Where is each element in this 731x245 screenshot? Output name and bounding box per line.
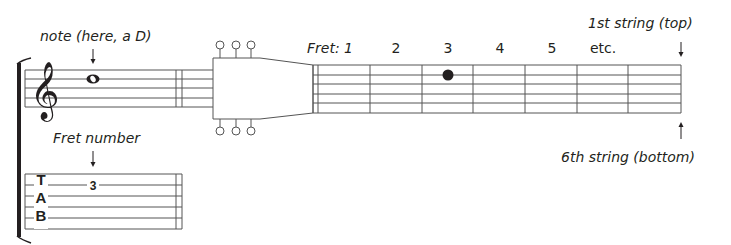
note-label: note (here, a D) <box>40 29 151 43</box>
tab-letter-b: B <box>36 208 47 223</box>
svg-text:𝄞: 𝄞 <box>30 61 60 122</box>
system-bracket <box>17 58 31 243</box>
tab-letter-t: T <box>36 172 45 187</box>
fret-label-3: 3 <box>444 41 453 55</box>
fret-number-label: Fret number <box>53 131 140 145</box>
note-arrow-icon <box>91 49 96 64</box>
fret-dot-marker <box>443 70 454 81</box>
tuning-pegs-top <box>216 41 255 58</box>
fret-label-etc: etc. <box>590 41 616 55</box>
fret-label-5: 5 <box>548 41 557 55</box>
sixth-string-arrow-icon <box>679 122 684 139</box>
fretboard <box>313 65 681 113</box>
tab-staff <box>25 174 182 229</box>
tab-fret-number: 3 <box>90 180 97 192</box>
whole-note-icon <box>87 74 100 83</box>
fret-label-prefix: Fret: 1 <box>307 41 353 55</box>
first-string-label: 1st string (top) <box>588 16 693 30</box>
fret-number-arrow-icon <box>91 151 96 167</box>
tab-letter-a: A <box>36 190 47 205</box>
guitar-headstock <box>213 58 313 119</box>
sixth-string-label: 6th string (bottom) <box>561 150 695 164</box>
first-string-arrow-icon <box>679 42 684 57</box>
fret-label-2: 2 <box>392 41 401 55</box>
fret-label-4: 4 <box>496 41 505 55</box>
treble-clef-icon: 𝄞 <box>30 61 60 122</box>
tuning-pegs-bottom <box>216 119 255 135</box>
